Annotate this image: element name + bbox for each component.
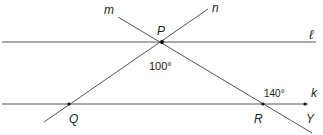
label-point-p: P	[157, 24, 165, 38]
label-line-k: k	[311, 86, 318, 100]
label-line-m: m	[104, 3, 114, 17]
point-r	[261, 102, 264, 105]
point-y	[303, 102, 306, 105]
angle-label-r: 140°	[264, 88, 285, 99]
angle-label-p: 100°	[149, 60, 172, 72]
label-line-n: n	[212, 1, 219, 15]
point-p	[160, 40, 164, 44]
label-point-r: R	[254, 112, 263, 126]
label-point-y: Y	[306, 112, 315, 126]
point-q	[67, 102, 70, 105]
geometry-diagram: m n ℓ k P Q R Y 100° 140°	[0, 0, 323, 135]
label-line-l: ℓ	[309, 27, 314, 42]
label-point-q: Q	[69, 112, 78, 126]
line-m	[118, 17, 312, 133]
